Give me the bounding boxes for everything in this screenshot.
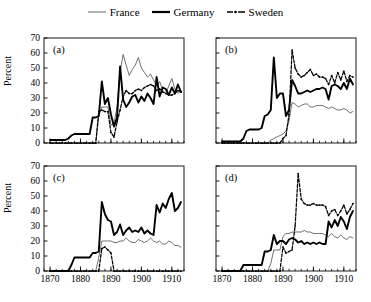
series-marker-sweden bbox=[233, 270, 235, 272]
series-marker-sweden bbox=[325, 206, 327, 208]
series-marker-sweden bbox=[340, 79, 342, 81]
x-tick-label: 1900 bbox=[132, 274, 151, 284]
series-marker-sweden bbox=[337, 72, 339, 74]
series-marker-sweden bbox=[86, 142, 88, 144]
series-marker-sweden bbox=[331, 210, 333, 212]
series-marker-sweden bbox=[68, 270, 70, 272]
series-marker-sweden bbox=[168, 94, 170, 96]
series-marker-sweden bbox=[313, 203, 315, 205]
series-marker-sweden bbox=[168, 270, 170, 272]
series-marker-sweden bbox=[49, 270, 51, 272]
y-tick-label: 40 bbox=[31, 206, 41, 216]
series-marker-sweden bbox=[233, 142, 235, 144]
series-marker-sweden bbox=[98, 270, 100, 272]
series-marker-sweden bbox=[150, 270, 152, 272]
y-tick-label: 50 bbox=[31, 63, 41, 73]
series-marker-sweden bbox=[110, 252, 112, 254]
series-marker-sweden bbox=[86, 270, 88, 272]
series-marker-sweden bbox=[303, 203, 305, 205]
series-marker-sweden bbox=[95, 142, 97, 144]
series-marker-sweden bbox=[346, 213, 348, 215]
series-marker-sweden bbox=[125, 90, 127, 92]
series-marker-sweden bbox=[107, 111, 109, 113]
series-marker-sweden bbox=[104, 246, 106, 248]
series-marker-sweden bbox=[285, 135, 287, 137]
series-marker-sweden bbox=[165, 270, 167, 272]
series-marker-sweden bbox=[310, 204, 312, 206]
series-marker-sweden bbox=[294, 67, 296, 69]
series-marker-sweden bbox=[95, 270, 97, 272]
series-marker-sweden bbox=[101, 248, 103, 250]
series-marker-sweden bbox=[227, 270, 229, 272]
series-line-france bbox=[222, 231, 353, 272]
y-tick-label: 60 bbox=[31, 176, 41, 186]
series-marker-sweden bbox=[92, 142, 94, 144]
line-swatch-icon bbox=[88, 8, 106, 16]
series-marker-sweden bbox=[316, 204, 318, 206]
series-marker-sweden bbox=[98, 111, 100, 113]
series-marker-sweden bbox=[249, 142, 251, 144]
series-marker-sweden bbox=[174, 93, 176, 95]
series-marker-sweden bbox=[291, 249, 293, 251]
series-marker-sweden bbox=[119, 109, 121, 111]
series-marker-sweden bbox=[243, 270, 245, 272]
x-tick-label: 1870 bbox=[41, 274, 60, 284]
series-marker-sweden bbox=[279, 142, 281, 144]
series-marker-sweden bbox=[68, 142, 70, 144]
x-tick-label: 1890 bbox=[273, 274, 292, 284]
series-marker-sweden bbox=[138, 88, 140, 90]
series-marker-sweden bbox=[230, 270, 232, 272]
series-marker-sweden bbox=[55, 270, 57, 272]
panel-label-c: (c) bbox=[53, 172, 65, 184]
series-marker-sweden bbox=[171, 270, 173, 272]
series-marker-sweden bbox=[110, 132, 112, 134]
y-tick-label: 60 bbox=[31, 48, 41, 58]
series-marker-sweden bbox=[113, 136, 115, 138]
chart-legend: France Germany Sweden bbox=[0, 2, 371, 22]
series-marker-sweden bbox=[162, 270, 164, 272]
series-line-germany bbox=[222, 211, 353, 271]
panel-d: 18701880189019001910(d) bbox=[213, 166, 356, 284]
series-marker-sweden bbox=[291, 49, 293, 51]
series-marker-sweden bbox=[282, 138, 284, 140]
series-marker-sweden bbox=[116, 121, 118, 123]
series-marker-sweden bbox=[92, 270, 94, 272]
series-marker-sweden bbox=[249, 270, 251, 272]
series-marker-sweden bbox=[221, 142, 223, 144]
x-tick-label: 1880 bbox=[71, 274, 90, 284]
y-tick-label: 30 bbox=[31, 221, 41, 231]
series-marker-sweden bbox=[270, 270, 272, 272]
series-marker-sweden bbox=[273, 142, 275, 144]
series-marker-sweden bbox=[162, 91, 164, 93]
series-marker-sweden bbox=[180, 270, 182, 272]
series-marker-sweden bbox=[300, 76, 302, 78]
panel-label-d: (d) bbox=[225, 172, 238, 184]
series-marker-sweden bbox=[240, 142, 242, 144]
series-marker-sweden bbox=[122, 270, 124, 272]
series-marker-sweden bbox=[171, 94, 173, 96]
series-marker-sweden bbox=[64, 270, 66, 272]
x-tick-label: 1910 bbox=[334, 274, 353, 284]
series-marker-sweden bbox=[224, 142, 226, 144]
series-marker-sweden bbox=[243, 142, 245, 144]
y-axis-label-top: Percent bbox=[2, 56, 13, 86]
panel-c: 01020304050607018701880189019001910(c) bbox=[31, 161, 185, 284]
series-marker-sweden bbox=[125, 270, 127, 272]
series-marker-sweden bbox=[83, 142, 85, 144]
panel-b: (b) bbox=[216, 38, 356, 144]
series-marker-sweden bbox=[221, 270, 223, 272]
series-marker-sweden bbox=[252, 270, 254, 272]
series-marker-sweden bbox=[89, 270, 91, 272]
series-marker-sweden bbox=[153, 270, 155, 272]
legend-label-germany: Germany bbox=[174, 7, 215, 18]
series-marker-sweden bbox=[334, 209, 336, 211]
series-marker-sweden bbox=[144, 87, 146, 89]
series-marker-sweden bbox=[150, 84, 152, 86]
series-marker-sweden bbox=[74, 142, 76, 144]
series-marker-sweden bbox=[319, 76, 321, 78]
series-marker-sweden bbox=[177, 270, 179, 272]
legend-entry-sweden: Sweden bbox=[227, 7, 284, 18]
series-marker-sweden bbox=[294, 225, 296, 227]
series-marker-sweden bbox=[288, 114, 290, 116]
series-marker-sweden bbox=[297, 173, 299, 175]
